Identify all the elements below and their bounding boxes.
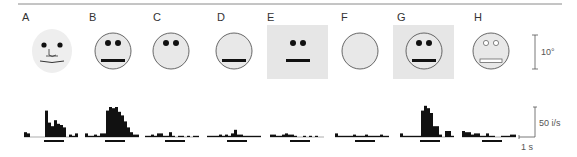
stimulus-c	[153, 33, 189, 69]
right-eye-icon	[493, 40, 498, 45]
psth-bar	[234, 130, 237, 137]
psth-bar	[445, 131, 448, 137]
mouth-icon	[480, 59, 502, 63]
face-outline	[342, 33, 378, 69]
stimulus-a	[32, 29, 72, 73]
face-photo	[32, 29, 72, 73]
psth-bar	[45, 111, 48, 137]
psth-bar	[157, 133, 160, 137]
psth-bar	[513, 135, 516, 137]
stimulus-h	[473, 33, 509, 69]
psth-bar	[210, 136, 213, 137]
psth-bar	[231, 133, 234, 137]
psth-bar	[492, 136, 495, 137]
stimuli	[32, 25, 509, 79]
psth-bar	[282, 135, 285, 137]
psth-bar	[69, 135, 72, 137]
psth-bar	[193, 136, 196, 137]
stimulus-d	[216, 33, 252, 69]
left-eye-icon	[163, 40, 169, 46]
psth-bar	[51, 126, 54, 137]
psth-bar	[430, 113, 433, 137]
stimulus-g	[393, 25, 454, 79]
psth-bar	[169, 132, 172, 137]
rate-scale-label: 50 i/s	[539, 118, 561, 128]
face-outline	[216, 33, 252, 69]
psth-bar	[145, 136, 148, 137]
psth-bar	[240, 135, 243, 137]
psth-bar	[462, 131, 465, 137]
psth-bar	[115, 107, 118, 137]
panel-labels: ABCDEFGH	[22, 11, 482, 23]
psth-bar	[118, 112, 121, 137]
psth-bar	[350, 136, 353, 137]
left-eye-icon	[483, 40, 488, 45]
left-eye-icon	[105, 40, 111, 46]
psth-bar	[383, 136, 386, 137]
stimulus-f	[342, 33, 378, 69]
psth-bar	[415, 136, 418, 137]
histograms	[24, 106, 516, 142]
psth-bar	[97, 136, 100, 137]
stimulus-period-bar	[290, 140, 310, 142]
mouth-icon	[222, 59, 246, 62]
psth-bar	[219, 135, 222, 137]
psth-bar	[72, 136, 75, 137]
psth-bar	[127, 127, 130, 137]
right-eye-icon	[300, 40, 306, 46]
psth-bar	[27, 133, 30, 137]
psth-bar	[436, 126, 439, 137]
psth-bar	[124, 121, 127, 137]
psth-bar	[133, 135, 136, 137]
psth-bar	[103, 133, 106, 137]
psth-bar	[353, 135, 356, 137]
psth-bar	[380, 135, 383, 137]
psth-bar	[406, 136, 409, 137]
panel-label-h: H	[474, 11, 482, 23]
psth-bar	[48, 123, 51, 137]
right-eye-icon	[115, 40, 121, 46]
stimulus-period-bar	[165, 140, 185, 142]
psth-bar	[91, 136, 94, 137]
psth-bar	[196, 136, 199, 137]
psth-bar	[285, 133, 288, 137]
stimulus-period-bar	[105, 140, 125, 142]
psth-bar	[418, 136, 421, 137]
psth-bar	[439, 135, 442, 137]
panel-label-g: G	[397, 11, 406, 23]
panel-label-c: C	[153, 11, 161, 23]
psth-bar	[335, 133, 338, 137]
psth-bar	[222, 136, 225, 137]
psth-bar	[54, 120, 57, 137]
stimulus-b	[95, 33, 131, 69]
psth-bar	[94, 135, 97, 137]
psth-bar	[255, 136, 258, 137]
stimulus-period-bar	[44, 140, 64, 142]
psth-bar	[510, 135, 513, 137]
psth-bar	[403, 136, 406, 137]
psth-bar	[486, 133, 489, 137]
psth-bar	[252, 136, 255, 137]
psth-bar	[100, 133, 103, 137]
gray-background	[267, 25, 328, 79]
psth-bar	[483, 136, 486, 137]
psth-bar	[474, 133, 477, 137]
psth-bar	[368, 136, 371, 137]
psth-bar	[151, 135, 154, 137]
psth-bar	[451, 136, 454, 137]
psth-bar	[291, 135, 294, 137]
psth-bar	[121, 115, 124, 137]
psth-bar	[347, 136, 350, 137]
panel-label-b: B	[89, 11, 96, 23]
psth-bar	[315, 136, 318, 137]
face-outline	[406, 33, 442, 69]
psth-bar	[365, 135, 368, 137]
psth-bar	[172, 136, 175, 137]
psth-bar	[109, 107, 112, 137]
left-eye-icon	[290, 40, 296, 46]
psth-bar	[341, 136, 344, 137]
psth-g	[400, 106, 454, 142]
rate-time-scale-bar: 50 i/s 1 s	[519, 107, 561, 152]
mouth-icon	[412, 59, 436, 62]
psth-bar	[409, 136, 412, 137]
